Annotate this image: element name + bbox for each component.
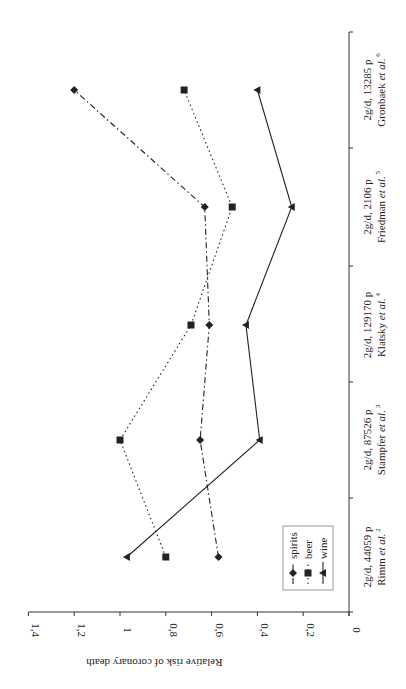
category-label-author: Klatsky et al. 4 [374,292,387,357]
legend-label-spirits: spirits [287,532,299,559]
triangle-marker-icon [123,553,130,561]
value-tick-label: 0,6 [214,623,226,637]
category-label: 2g/d, 44059 pRimm et al. 2 [361,526,387,587]
category-label-stats: 2g/d, 13285 p [361,59,373,120]
category-label-author: Stampfer et al. 3 [374,404,387,475]
square-marker-icon [187,322,194,329]
value-tick-label: 1 [122,627,134,633]
category-label-author: Gronbaek et al. 6 [374,53,387,127]
value-tick-label: 0,8 [168,623,180,637]
series-beer [117,87,236,561]
square-marker-icon [117,437,124,444]
series-spirits [70,86,222,561]
legend-label-beer: beer [302,540,314,559]
series-line-beer [120,90,232,557]
chart-series [70,86,295,561]
chart-legend: spiritsbeerwine [283,526,333,590]
category-label: 2g/d, 87526 pStampfer et al. 3 [361,404,387,475]
value-tick-label: 1,4 [30,623,42,637]
triangle-marker-icon [253,86,260,94]
category-label-stats: 2g/d, 87526 p [361,409,373,470]
value-tick-label: 0,4 [259,623,271,637]
category-label: 2g/d, 2106 pFriedman et al. 5 [361,170,387,243]
legend-label-wine: wine [317,538,329,560]
category-label-stats: 2g/d, 129170 p [361,291,373,358]
value-tick-label: 1,2 [76,623,88,637]
category-label-author: Rimm et al. 2 [374,528,387,586]
chart-canvas: 00,20,40,60,811,21,4Relative risk of cor… [0,0,406,689]
diamond-marker-icon [205,321,213,329]
category-label-author: Friedman et al. 5 [374,170,387,243]
category-label-stats: 2g/d, 2106 p [361,179,373,235]
square-marker-icon [305,570,312,577]
diamond-marker-icon [196,436,204,444]
triangle-marker-icon [242,321,249,329]
category-label: 2g/d, 13285 pGronbaek et al. 6 [361,53,387,127]
square-marker-icon [162,554,169,561]
category-label: 2g/d, 129170 pKlatsky et al. 4 [361,291,387,358]
square-marker-icon [181,87,188,94]
y-axis-title: Relative risk of coronary death [86,657,223,669]
chart-figure: 00,20,40,60,811,21,4Relative risk of cor… [0,0,406,689]
square-marker-icon [229,204,236,211]
value-tick-label: 0 [351,627,363,633]
category-label-stats: 2g/d, 44059 p [361,526,373,587]
series-line-spirits [74,90,218,557]
value-tick-label: 0,2 [305,623,317,637]
diamond-marker-icon [214,553,222,561]
